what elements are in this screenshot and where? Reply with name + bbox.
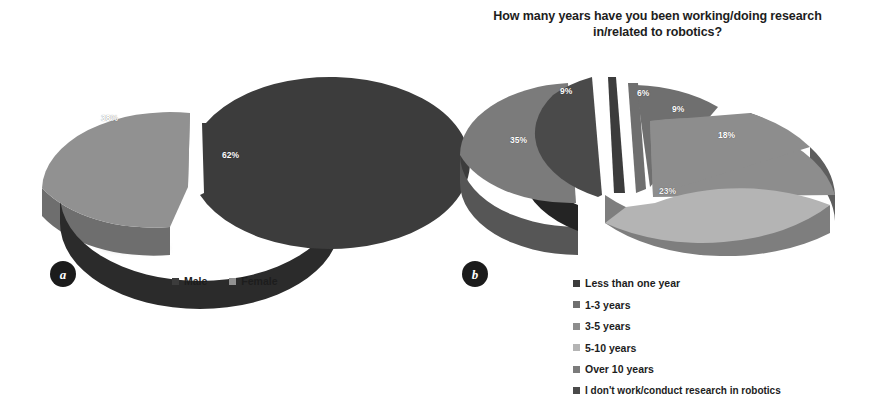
legend-label-male: Male xyxy=(184,275,207,287)
legend-swatch-1-3-years xyxy=(573,301,580,308)
pie-b-svg xyxy=(450,55,850,270)
legend-label-3-5-years: 3-5 years xyxy=(585,320,631,332)
pie-b-label-1to3: 9% xyxy=(672,104,684,114)
pie-chart-a xyxy=(20,55,420,275)
legend-label-no-robotics: I don't work/conduct research in robotic… xyxy=(585,385,781,396)
legend-label-female: Female xyxy=(241,275,277,287)
chart-b-title-line1: How many years have you been working/doi… xyxy=(485,8,830,24)
legend-swatch-less-than-one-year xyxy=(573,280,580,287)
pie-a-svg xyxy=(20,55,420,275)
legend-swatch-female xyxy=(229,278,236,285)
figure-badge-a: a xyxy=(50,261,76,287)
pie-b-label-norobotics: 9% xyxy=(560,86,572,96)
legend-swatch-no-robotics xyxy=(573,387,580,394)
legend-label-over-10-years: Over 10 years xyxy=(585,363,654,375)
legend-swatch-5-10-years xyxy=(573,344,580,351)
legend-label-less-than-one-year: Less than one year xyxy=(585,277,680,289)
pie-chart-b xyxy=(450,55,850,270)
legend-item-no-robotics[interactable]: I don't work/conduct research in robotic… xyxy=(573,385,781,396)
legend-item-1-3-years[interactable]: 1-3 years xyxy=(573,299,781,311)
legend-b: Less than one year 1-3 years 3-5 years 5… xyxy=(573,277,781,396)
legend-label-1-3-years: 1-3 years xyxy=(585,299,631,311)
legend-swatch-3-5-years xyxy=(573,323,580,330)
legend-a: Male Female xyxy=(172,275,278,287)
pie-b-label-lessthanone: 6% xyxy=(637,88,649,98)
chart-panel-a: 38% 62% a Male Female xyxy=(0,0,440,419)
figure-badge-b: b xyxy=(462,261,488,287)
pie-a-label-male: 62% xyxy=(222,150,239,160)
legend-item-5-10-years[interactable]: 5-10 years xyxy=(573,342,781,354)
legend-swatch-male xyxy=(172,278,179,285)
chart-panel-b: How many years have you been working/doi… xyxy=(440,0,875,419)
legend-item-female[interactable]: Female xyxy=(229,275,277,287)
chart-b-title: How many years have you been working/doi… xyxy=(485,8,830,40)
legend-item-3-5-years[interactable]: 3-5 years xyxy=(573,320,781,332)
legend-item-over-10-years[interactable]: Over 10 years xyxy=(573,363,781,375)
slice-male-top xyxy=(200,77,470,249)
legend-item-male[interactable]: Male xyxy=(172,275,207,287)
pie-a-label-female: 38% xyxy=(101,113,118,123)
chart-b-title-line2: in/related to robotics? xyxy=(485,24,830,40)
slice-lessthanone-top xyxy=(608,77,625,193)
legend-label-5-10-years: 5-10 years xyxy=(585,342,636,354)
legend-item-less-than-one-year[interactable]: Less than one year xyxy=(573,277,781,289)
pie-b-label-5to10: 23% xyxy=(659,186,676,196)
legend-swatch-over-10-years xyxy=(573,366,580,373)
pie-b-label-3to5: 18% xyxy=(718,130,735,140)
pie-b-label-over10: 35% xyxy=(510,135,527,145)
